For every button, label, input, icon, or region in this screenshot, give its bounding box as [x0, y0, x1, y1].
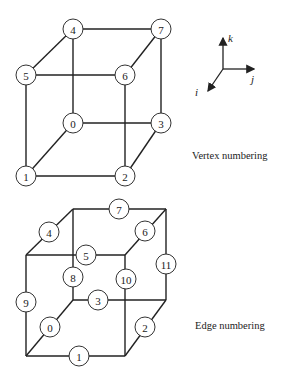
- edge-9-label: 9: [23, 297, 29, 309]
- edge-1: 1: [69, 346, 89, 366]
- edge-numbering-caption: Edge numbering: [195, 320, 265, 331]
- edge-5-label: 5: [83, 250, 89, 262]
- vertex-1-label: 1: [23, 171, 29, 183]
- edge-cube-edge-labels: 01234567891011: [16, 199, 176, 366]
- vertex-6-label: 6: [122, 70, 128, 82]
- cube-numbering-figure: 01234567 k j i Vertex numbering 01234567…: [0, 0, 281, 378]
- vertex-5: 5: [16, 65, 36, 85]
- edge-1-label: 1: [76, 351, 82, 363]
- vertex-0-label: 0: [70, 118, 76, 130]
- edge-7-label: 7: [116, 204, 122, 216]
- edge-4: 4: [39, 222, 59, 242]
- i-axis-label: i: [195, 86, 198, 98]
- edge-5: 5: [76, 245, 96, 265]
- edge-10-label: 10: [121, 274, 133, 286]
- edge-9: 9: [16, 292, 36, 312]
- axis-triad: k j i: [195, 32, 254, 98]
- vertex-7-label: 7: [158, 24, 164, 36]
- cube-edge: [26, 123, 73, 176]
- vertex-4: 4: [63, 19, 83, 39]
- edge-6-label: 6: [142, 226, 148, 238]
- edge-2-label: 2: [142, 322, 148, 334]
- j-axis-label: j: [249, 73, 254, 85]
- edge-2: 2: [135, 317, 155, 337]
- edge-6: 6: [135, 221, 155, 241]
- vertex-0: 0: [63, 113, 83, 133]
- i-axis-arrow: [208, 69, 223, 91]
- edge-3-label: 3: [95, 295, 101, 307]
- edge-11: 11: [156, 254, 176, 274]
- edge-0: 0: [40, 317, 60, 337]
- edge-3: 3: [88, 290, 108, 310]
- edge-0-label: 0: [47, 322, 53, 334]
- vertex-5-label: 5: [23, 70, 29, 82]
- edge-10: 10: [116, 269, 136, 289]
- vertex-3: 3: [151, 113, 171, 133]
- vertex-2-label: 2: [122, 171, 128, 183]
- vertex-cube-edges: [26, 29, 161, 176]
- edge-4-label: 4: [46, 227, 52, 239]
- vertex-4-label: 4: [70, 24, 76, 36]
- edge-11-label: 11: [161, 259, 172, 271]
- vertex-2: 2: [115, 166, 135, 186]
- vertex-3-label: 3: [158, 118, 164, 130]
- k-axis-label: k: [228, 32, 234, 44]
- edge-8-label: 8: [70, 272, 76, 284]
- edge-8: 8: [63, 267, 83, 287]
- edge-7: 7: [109, 199, 129, 219]
- vertex-7: 7: [151, 19, 171, 39]
- vertex-6: 6: [115, 65, 135, 85]
- vertex-1: 1: [16, 166, 36, 186]
- vertex-numbering-caption: Vertex numbering: [192, 150, 268, 161]
